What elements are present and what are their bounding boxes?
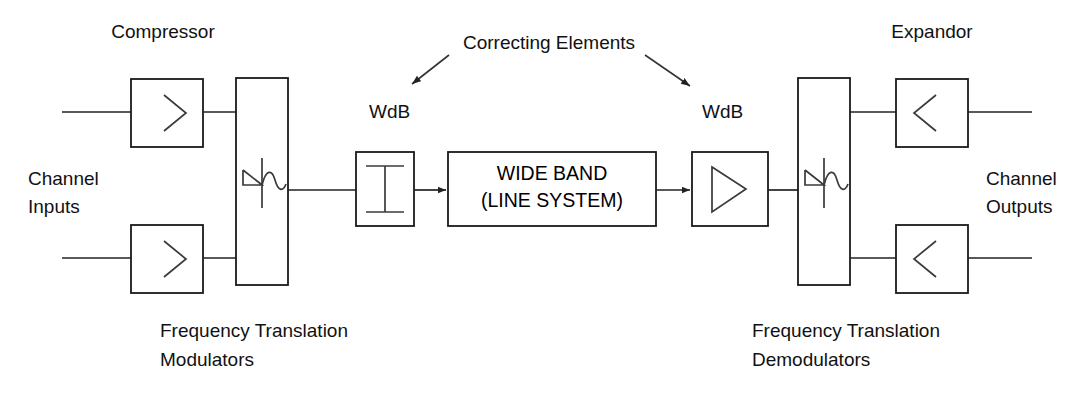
amplifier-box[interactable] — [692, 152, 768, 226]
modulators-label-line2: Modulators — [160, 349, 254, 370]
compressor-bottom-box[interactable] — [131, 225, 203, 293]
modulators-label-line1: Frequency Translation — [160, 320, 348, 341]
wdb-label-left: WdB — [369, 101, 410, 122]
expandor-label: Expandor — [891, 21, 973, 42]
wdb-label-right: WdB — [702, 101, 743, 122]
compressor-label: Compressor — [111, 21, 215, 42]
wide-band-label-line2: (LINE SYSTEM) — [481, 189, 623, 211]
callout-arrow-left — [412, 55, 449, 84]
diagram-canvas: WIDE BAND (LINE SYSTEM) Compres — [0, 0, 1080, 397]
channel-inputs-label-line1: Channel — [28, 168, 99, 189]
channel-outputs-label-line1: Channel — [986, 168, 1057, 189]
callout-arrow-right — [645, 55, 690, 86]
compressor-top-box[interactable] — [131, 79, 203, 147]
demodulators-label-line2: Demodulators — [752, 349, 870, 370]
demodulators-label-line1: Frequency Translation — [752, 320, 940, 341]
expandor-bottom-box[interactable] — [896, 225, 968, 293]
block-diagram: WIDE BAND (LINE SYSTEM) Compres — [0, 0, 1080, 397]
channel-outputs-label-line2: Outputs — [986, 196, 1053, 217]
expandor-top-box[interactable] — [896, 79, 968, 147]
correcting-elements-label: Correcting Elements — [463, 32, 635, 53]
channel-inputs-label-line2: Inputs — [28, 196, 80, 217]
wide-band-label-line1: WIDE BAND — [497, 162, 608, 184]
